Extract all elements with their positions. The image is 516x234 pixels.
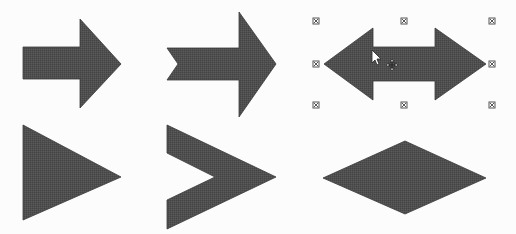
handle-bottom-right[interactable] bbox=[489, 102, 495, 108]
handle-middle-left[interactable] bbox=[313, 61, 319, 67]
diamond-shape[interactable] bbox=[323, 141, 486, 214]
notched-right-arrow-shape[interactable] bbox=[167, 12, 276, 117]
left-right-arrow-shape[interactable] bbox=[324, 28, 486, 100]
handle-top-left[interactable] bbox=[313, 18, 319, 24]
chevron-shape[interactable] bbox=[167, 125, 276, 229]
drawing-canvas[interactable] bbox=[0, 0, 516, 234]
handle-bottom-left[interactable] bbox=[313, 102, 319, 108]
handle-top-center[interactable] bbox=[401, 18, 407, 24]
handle-top-right[interactable] bbox=[489, 18, 495, 24]
handle-middle-right[interactable] bbox=[489, 61, 495, 67]
shapes-layer bbox=[0, 0, 516, 234]
right-arrow-shape[interactable] bbox=[23, 19, 121, 108]
isosceles-triangle-shape[interactable] bbox=[23, 125, 121, 220]
handle-bottom-center[interactable] bbox=[401, 102, 407, 108]
